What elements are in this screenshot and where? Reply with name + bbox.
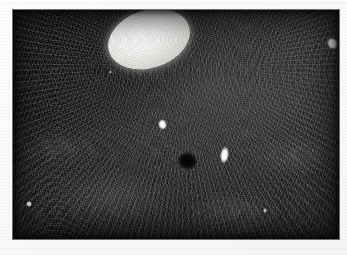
photomicrograph-figure (0, 0, 347, 255)
white-dot-lower-left (26, 201, 32, 207)
white-speck-tiny-lower (263, 208, 267, 213)
dark-round-focus (175, 150, 199, 172)
bright-oval-lesion (100, 10, 198, 80)
scan-streak-top (0, 3, 347, 4)
white-speck-right-margin (324, 35, 339, 52)
figure-caption (13, 241, 339, 253)
white-speck-center (156, 118, 167, 131)
white-speck-tiny-upper (109, 70, 112, 74)
white-speck-right (218, 145, 229, 164)
photographic-plate (13, 10, 339, 239)
